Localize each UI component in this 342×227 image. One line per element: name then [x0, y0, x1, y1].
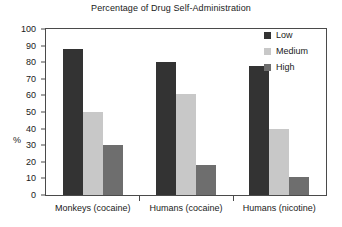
y-axis-label: %	[13, 135, 21, 145]
y-tick-label: 50	[26, 108, 36, 117]
y-tick-label: 100	[21, 25, 36, 34]
x-tick-label: Humans (nicotine)	[243, 203, 316, 213]
bar-slot	[156, 29, 176, 195]
chart-legend: LowMediumHigh	[264, 27, 308, 75]
bar-group	[63, 29, 123, 195]
y-tick-label: 70	[26, 74, 36, 83]
bar-slot	[83, 29, 103, 195]
bar-slot	[176, 29, 196, 195]
legend-swatch-icon	[264, 32, 271, 39]
legend-label: Low	[276, 30, 293, 40]
bar	[156, 62, 176, 195]
bar	[269, 129, 289, 195]
legend-label: Medium	[276, 46, 308, 56]
y-tick-label: 10	[26, 174, 36, 183]
legend-swatch-icon	[264, 48, 271, 55]
bar-chart: Percentage of Drug Self-Administration %…	[0, 0, 342, 227]
legend-item[interactable]: Medium	[264, 43, 308, 59]
chart-title: Percentage of Drug Self-Administration	[0, 3, 342, 13]
y-tick-label: 80	[26, 58, 36, 67]
y-tick-label: 20	[26, 157, 36, 166]
legend-item[interactable]: Low	[264, 27, 308, 43]
y-tick-label: 90	[26, 41, 36, 50]
y-tick-label: 0	[31, 191, 36, 200]
bar	[196, 165, 216, 195]
x-tick-mark	[233, 196, 234, 201]
y-tick-label: 60	[26, 91, 36, 100]
bar	[249, 66, 269, 195]
legend-item[interactable]: High	[264, 59, 308, 75]
bar-slot	[196, 29, 216, 195]
x-tick-label: Humans (cocaine)	[149, 203, 222, 213]
bar	[103, 145, 123, 195]
bar	[289, 177, 309, 195]
x-tick-mark	[139, 196, 140, 201]
y-tick-label: 30	[26, 141, 36, 150]
bar-group	[156, 29, 216, 195]
bar-slot	[63, 29, 83, 195]
bar	[83, 112, 103, 195]
legend-label: High	[276, 62, 295, 72]
bar	[176, 94, 196, 195]
x-tick-label: Monkeys (cocaine)	[55, 203, 131, 213]
y-axis: % 1009080706050403020100	[0, 28, 45, 196]
bar	[63, 49, 83, 195]
y-tick-label: 40	[26, 124, 36, 133]
legend-swatch-icon	[264, 64, 271, 71]
bar-slot	[103, 29, 123, 195]
